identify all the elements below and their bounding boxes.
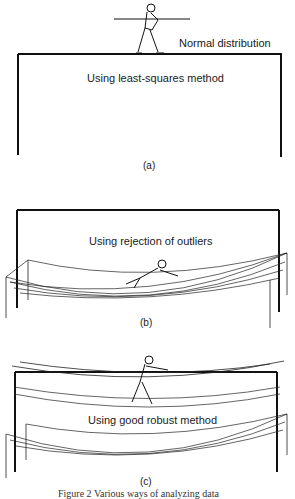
safety-net <box>6 253 287 298</box>
panel-c: Using good robust method (c) <box>0 330 295 498</box>
confident-walker <box>132 356 168 404</box>
label-robust-method: Using good robust method <box>88 414 217 426</box>
tightrope-illustration <box>0 0 295 170</box>
sublabel-c: (c) <box>140 476 152 487</box>
label-rejection-outliers: Using rejection of outliers <box>89 235 213 247</box>
upper-net <box>14 387 280 407</box>
walker-figure <box>136 4 164 53</box>
tightrope-net-illustration <box>0 170 295 330</box>
label-least-squares: Using least-squares method <box>87 72 224 84</box>
sublabel-b: (b) <box>140 317 152 328</box>
panel-a: Normal distribution Using least-squares … <box>0 0 295 170</box>
figure-caption: Figure 2 Various ways of analyzing data <box>58 488 219 499</box>
panel-b: Using rejection of outliers (b) <box>0 170 295 330</box>
label-normal-distribution: Normal distribution <box>179 37 271 49</box>
